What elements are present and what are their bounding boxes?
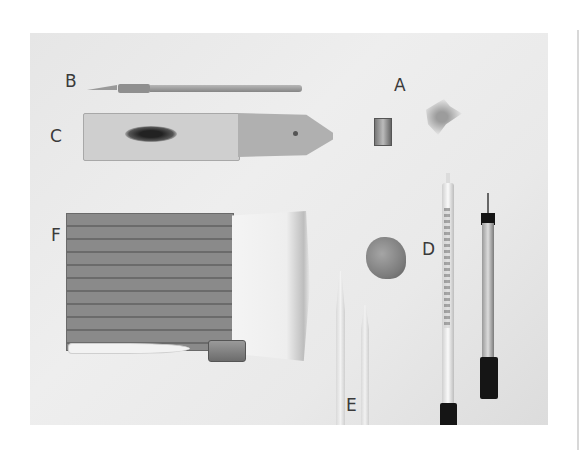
craft-knife-collar xyxy=(118,84,150,93)
white-pencil-label xyxy=(444,208,450,328)
white-pencil-end-cap xyxy=(440,403,457,425)
label-d: D xyxy=(422,241,435,258)
blending-stump-large xyxy=(336,271,345,425)
label-a: A xyxy=(394,77,406,94)
pencil-sharpener xyxy=(374,118,392,146)
fineliner-tip xyxy=(487,193,489,213)
sandpaper-paddle xyxy=(238,113,333,157)
metal-sharpener xyxy=(208,340,246,362)
blending-stump-small xyxy=(361,305,369,425)
kneaded-eraser xyxy=(366,237,406,279)
label-e: E xyxy=(346,397,357,414)
charcoal-smudge xyxy=(125,126,177,142)
fineliner-cap xyxy=(480,357,498,399)
pencil-shavings xyxy=(422,99,462,135)
label-b: B xyxy=(65,73,77,90)
label-f: F xyxy=(51,227,61,244)
craft-knife-blade xyxy=(87,85,117,90)
art-tools-photo: B C A F D E xyxy=(30,33,548,425)
label-c: C xyxy=(50,128,62,145)
hake-brush-bristles xyxy=(232,211,310,361)
chalk-stick xyxy=(68,343,190,354)
craft-knife-handle xyxy=(150,85,302,92)
paddle-hole xyxy=(293,131,298,136)
hake-brush-handle xyxy=(66,213,234,351)
page-edge-divider xyxy=(577,30,579,450)
